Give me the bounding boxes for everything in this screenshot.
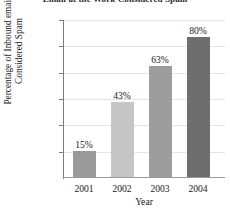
- bar-chart: Email at the Work Considered Spam Percen…: [0, 0, 230, 217]
- y-axis-title: Percentage of Inbound email Considered S…: [3, 0, 33, 131]
- bar: [111, 102, 134, 177]
- y-axis-tick: [59, 73, 63, 74]
- bar: [149, 66, 172, 177]
- y-axis-tick: [59, 125, 63, 126]
- bar-value-label: 15%: [64, 140, 104, 150]
- y-axis-tick: [59, 152, 63, 153]
- y-axis-tick: [59, 99, 63, 100]
- y-axis-tick: [59, 46, 63, 47]
- x-axis-title: Year: [63, 196, 225, 207]
- x-axis-line: [63, 177, 225, 178]
- bar-value-label: 63%: [140, 55, 180, 65]
- bar: [73, 151, 96, 177]
- y-axis-title-line-2: Considered Spam: [14, 0, 25, 131]
- y-axis-tick: [59, 20, 63, 21]
- chart-title: Email at the Work Considered Spam: [0, 0, 230, 5]
- x-axis-tick-label: 2004: [176, 183, 220, 194]
- y-axis-title-line-1: Percentage of Inbound email: [3, 0, 14, 131]
- bar: [187, 37, 210, 177]
- bar-value-label: 43%: [102, 91, 142, 101]
- gridline: [64, 20, 225, 21]
- bar-value-label: 80%: [178, 26, 218, 36]
- plot-area: 15%30%45%60%75%90% 15%43%63%80% 20012002…: [63, 20, 225, 178]
